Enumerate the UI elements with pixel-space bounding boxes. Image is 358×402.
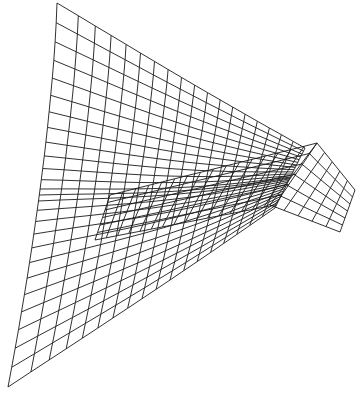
wireframe-surface-figure <box>0 0 358 402</box>
mesh-line <box>52 78 299 160</box>
mesh-line <box>8 208 275 387</box>
mesh-line <box>49 112 296 165</box>
mesh-line <box>27 191 283 278</box>
mesh-line <box>82 44 126 338</box>
mesh-line <box>98 53 141 328</box>
mesh-line <box>66 35 111 348</box>
mesh-line <box>55 42 302 154</box>
wireframe-mesh <box>0 0 358 402</box>
mesh-lines <box>8 3 355 387</box>
mesh-line <box>56 23 303 151</box>
mesh-line <box>12 205 277 367</box>
mesh-line <box>57 3 305 148</box>
